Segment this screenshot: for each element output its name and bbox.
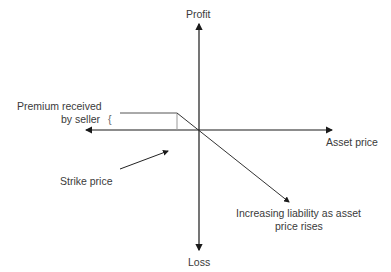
premium-label-line2: by seller xyxy=(61,113,100,126)
premium-label-line1: Premium received xyxy=(17,100,102,113)
strike-pointer xyxy=(120,151,168,169)
liability-line xyxy=(177,113,289,202)
profit-label: Profit xyxy=(186,8,211,21)
liability-label-line2: price rises xyxy=(275,220,323,233)
liability-label-line1: Increasing liability as asset xyxy=(236,207,361,220)
asset-price-label: Asset price xyxy=(326,136,378,149)
loss-label: Loss xyxy=(188,256,210,269)
strike-price-label: Strike price xyxy=(60,175,113,188)
premium-brace: { xyxy=(108,113,112,126)
payoff-diagram: Profit Loss Asset price Premium received… xyxy=(0,0,391,272)
